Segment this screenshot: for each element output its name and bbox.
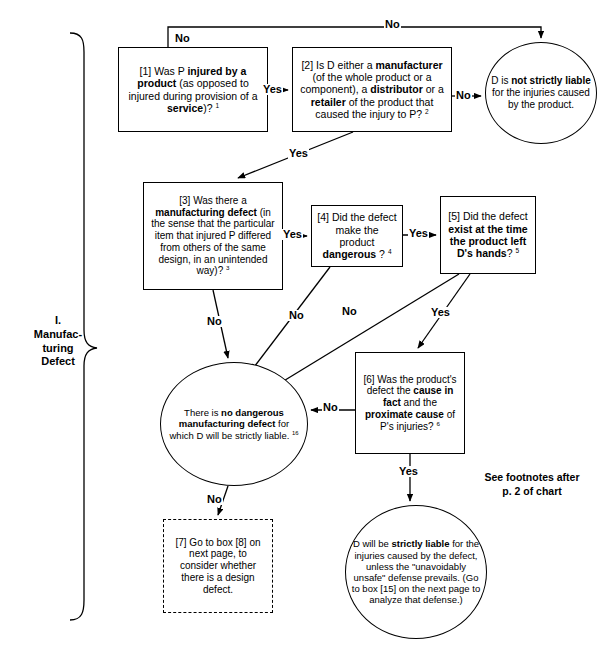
edge-label-box6-yes: Yes [398, 466, 419, 477]
box6-footnote-marker: 6 [436, 419, 439, 426]
outcome-no-dangerous-defect-text: There is no dangerous manufacturing defe… [161, 405, 307, 443]
edge-label-nodeB-no: No [206, 494, 223, 505]
edge-label-box4-no: No [288, 310, 305, 321]
box2-seg4: distributor [370, 83, 423, 95]
box1-seg4: service [167, 102, 203, 114]
edge-label-box1-no: No [174, 33, 191, 44]
edge-label-box2-no: No [455, 90, 472, 101]
goto-box-7-text: [7] Go to box [8] on next page, to consi… [164, 535, 272, 598]
decision-box-6[interactable]: [6] Was the product's defect the cause i… [355, 352, 465, 454]
box4-footnote-marker: 4 [388, 248, 392, 255]
edge-label-box3-no: No [206, 316, 223, 327]
edge-label-top-no: No [384, 19, 401, 30]
edge-label-box4-yes: Yes [408, 228, 429, 239]
box1-seg5: )? [203, 102, 215, 114]
nodeA-seg2: not strictly liable [511, 75, 590, 86]
box3-seg2: manufacturing defect [155, 207, 257, 218]
box5-seg1: [5] Did the defect [448, 210, 527, 222]
outcome-strictly-liable-text: D will be strictly liable for the injuri… [346, 536, 486, 607]
decision-box-1[interactable]: [1] Was P injured by a product (as oppos… [118, 47, 268, 132]
nodeC-seg1: D will be [353, 538, 392, 549]
outcome-not-strictly-liable-text: D is not strictly liable for the injurie… [486, 73, 596, 112]
decision-box-3-text: [3] Was there a manufacturing defect (in… [144, 193, 282, 280]
box2-seg6: retailer [311, 96, 346, 108]
decision-box-3[interactable]: [3] Was there a manufacturing defect (in… [143, 182, 283, 290]
box4-seg1: [4] Did the defect make the product [317, 211, 396, 248]
box2-seg5: or a [423, 83, 444, 95]
decision-box-5-text: [5] Did the defect exist at the time the… [441, 208, 535, 262]
decision-box-1-text: [1] Was P injured by a product (as oppos… [119, 63, 267, 117]
nodeB-seg1: There is [184, 407, 221, 418]
decision-box-4[interactable]: [4] Did the defect make the product dang… [311, 205, 403, 267]
box6-seg3: and the [401, 397, 437, 408]
edge-label-box6-no: No [322, 402, 339, 413]
box1-seg1: [1] Was P [140, 65, 188, 77]
edge-label-box5-yes: Yes [430, 307, 451, 318]
edge-label-box2-yes: Yes [288, 148, 309, 159]
box1-footnote-marker: 1 [215, 101, 219, 108]
box2-seg2: manufacturer [376, 59, 443, 71]
box6-seg4: proximate cause [365, 409, 444, 420]
box3-footnote-marker: 3 [226, 264, 229, 271]
flowchart-canvas: [1] Was P injured by a product (as oppos… [0, 0, 611, 656]
decision-box-6-text: [6] Was the product's defect the cause i… [356, 372, 464, 435]
nodeC-seg2: strictly liable [391, 538, 449, 549]
box2-seg1: [2] Is D either a [301, 59, 375, 71]
box2-footnote-marker: 2 [425, 108, 429, 115]
decision-box-5[interactable]: [5] Did the defect exist at the time the… [440, 196, 536, 274]
footnote-reference-note: See footnotes after p. 2 of chart [462, 471, 602, 498]
outcome-no-dangerous-defect[interactable]: There is no dangerous manufacturing defe… [160, 362, 308, 486]
decision-box-2-text: [2] Is D either a manufacturer (of the w… [293, 57, 451, 123]
nodeA-seg3: for the injuries caused by the product. [492, 87, 590, 110]
decision-box-2[interactable]: [2] Is D either a manufacturer (of the w… [292, 47, 452, 132]
edge-label-box5-no: No [341, 306, 358, 317]
outcome-strictly-liable[interactable]: D will be strictly liable for the injuri… [345, 505, 487, 639]
outcome-not-strictly-liable[interactable]: D is not strictly liable for the injurie… [485, 42, 597, 144]
edge-label-box3-yes: Yes [282, 229, 303, 240]
nodeB-footnote-marker: 16 [292, 429, 299, 435]
box5-footnote-marker: 5 [515, 247, 519, 254]
box4-seg3: ? [376, 248, 388, 260]
edge-label-box1-yes: Yes [262, 84, 283, 95]
decision-box-4-text: [4] Did the defect make the product dang… [312, 209, 402, 263]
nodeA-seg1: D is [491, 75, 511, 86]
edge-box1-no [168, 27, 541, 47]
goto-box-7[interactable]: [7] Go to box [8] on next page, to consi… [163, 519, 273, 613]
box3-seg1: [3] Was there a [179, 195, 246, 206]
box4-seg2: dangerous [323, 248, 377, 260]
section-label-manufacturing-defect: I. Manufac- turing Defect [20, 314, 96, 369]
